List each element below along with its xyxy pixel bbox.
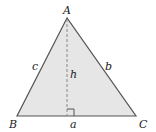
vertex-label-b: B bbox=[8, 118, 17, 131]
side-label-c: c bbox=[32, 60, 38, 73]
side-label-a: a bbox=[70, 118, 77, 131]
altitude-label-h: h bbox=[70, 68, 77, 81]
side-label-b: b bbox=[105, 60, 112, 73]
triangle-diagram: A B C c b a h bbox=[0, 0, 156, 132]
vertex-label-a: A bbox=[62, 4, 71, 17]
vertex-label-c: C bbox=[139, 118, 148, 131]
